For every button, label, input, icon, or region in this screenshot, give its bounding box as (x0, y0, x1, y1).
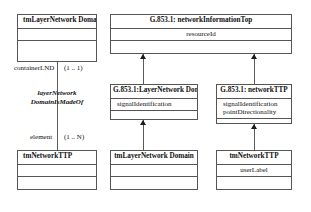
class-name-g853-layernetwork-domain: G.853.1:LayerNetwork Domain (111, 85, 197, 98)
association-target-role-element: element (30, 133, 52, 141)
class-box-tm-network-ttp-right[interactable]: tmNetworkTTP userLabel (216, 150, 292, 190)
class-attributes-compartment (111, 164, 197, 176)
association-name-layernetwork-domain-is-made-of: layerNetwork DomainIsMadeOf (12, 89, 102, 107)
class-operations-compartment (111, 40, 291, 52)
class-attributes-compartment (18, 164, 96, 176)
class-attributes-compartment-network-ttp: signalIdentification pointDirectionality (217, 98, 291, 119)
class-operations-compartment (18, 176, 96, 188)
generalization-arrowhead-lnd-to-nit (140, 54, 146, 59)
association-name-line-2: DomainIsMadeOf (12, 98, 102, 107)
class-operations-compartment (111, 110, 197, 122)
class-operations-compartment (18, 40, 96, 58)
class-name-tm-network-ttp-left: tmNetworkTTP (18, 151, 96, 164)
class-box-tm-layernetwork-domain-top[interactable]: tmLayerNetwork Domain (17, 14, 97, 62)
class-operations-compartment (111, 176, 197, 188)
class-name-tm-layernetwork-domain-bottom: tmLayerNetwork Domain (111, 151, 197, 164)
class-name-g853-network-ttp: G.853.1: networkTTP (217, 85, 291, 98)
class-box-tm-network-ttp-left[interactable]: tmNetworkTTP (17, 150, 97, 190)
class-box-g853-network-information-top[interactable]: G.853.1: networkInformationTop resourceI… (110, 14, 292, 54)
class-attributes-compartment (18, 28, 96, 40)
class-attribute-point-directionality: pointDirectionality (223, 108, 289, 116)
class-operations-compartment (217, 176, 291, 188)
class-attribute-user-label: userLabel (217, 164, 291, 177)
class-box-tm-layernetwork-domain-bottom[interactable]: tmLayerNetwork Domain (110, 150, 198, 190)
association-name-line-1: layerNetwork (12, 89, 102, 98)
class-name-g853-network-information-top: G.853.1: networkInformationTop (111, 15, 291, 28)
generalization-arrowhead-tmlnd-to-g853lnd (140, 120, 146, 125)
association-target-multiplicity: (1 .. N) (64, 133, 84, 141)
class-attribute-signal-identification: signalIdentification (223, 100, 289, 108)
class-attribute-signal-identification: signalIdentification (111, 98, 197, 111)
generalization-arrowhead-tmnttp-to-g853nttp (251, 124, 257, 129)
class-attribute-resource-id: resourceId (111, 28, 291, 41)
class-box-g853-network-ttp[interactable]: G.853.1: networkTTP signalIdentification… (216, 84, 292, 124)
class-box-g853-layernetwork-domain[interactable]: G.853.1:LayerNetwork Domain signalIdenti… (110, 84, 198, 120)
generalization-arrowhead-nttp-to-nit (251, 54, 257, 59)
association-source-role-container-lnd: containerLND (14, 64, 54, 72)
class-name-tm-layernetwork-domain-top: tmLayerNetwork Domain (18, 15, 96, 28)
association-source-multiplicity: (1 .. 1) (64, 64, 83, 72)
uml-diagram-canvas: tmLayerNetwork Domain G.853.1: networkIn… (0, 0, 311, 212)
class-name-tm-network-ttp-right: tmNetworkTTP (217, 151, 291, 164)
